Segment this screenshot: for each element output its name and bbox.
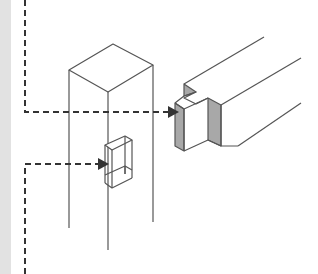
beam-with-tenon [175, 37, 301, 151]
joinery-diagram [0, 0, 318, 274]
leader-lower [25, 164, 98, 274]
mortise [105, 136, 132, 188]
arrow-head-lower [98, 158, 109, 170]
